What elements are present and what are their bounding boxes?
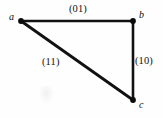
graph-figure: a b c (01) (10) (11) [0, 0, 163, 118]
edge-label-ab: (01) [69, 3, 87, 14]
vertex-b [130, 18, 136, 24]
vertex-label-b: b [139, 10, 144, 20]
vertex-label-a: a [9, 12, 14, 22]
edge-ac [21, 21, 133, 100]
vertex-a [18, 18, 24, 24]
edge-label-ac: (11) [42, 56, 60, 67]
vertex-label-c: c [139, 100, 143, 110]
vertex-c [130, 97, 136, 103]
edge-label-bc: (10) [135, 55, 153, 66]
